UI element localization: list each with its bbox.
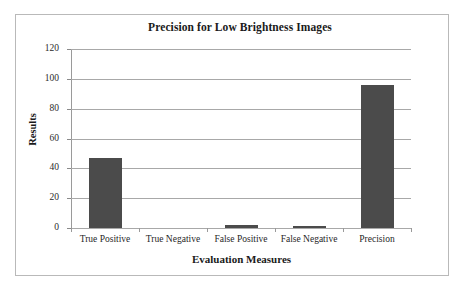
y-gridline bbox=[71, 79, 411, 80]
x-tick-mark bbox=[343, 228, 344, 232]
bar bbox=[225, 225, 258, 228]
bar bbox=[361, 85, 394, 228]
x-axis-title: Evaluation Measures bbox=[71, 253, 412, 265]
x-tick-mark bbox=[411, 228, 412, 232]
x-tick-label: True Negative bbox=[139, 234, 207, 244]
chart-figure: Precision for Low Brightness Images Resu… bbox=[0, 0, 465, 289]
y-tick-label: 80 bbox=[29, 104, 59, 114]
bar bbox=[293, 226, 326, 228]
plot-area bbox=[71, 49, 411, 228]
y-tick-mark bbox=[67, 198, 71, 199]
y-tick-mark bbox=[67, 139, 71, 140]
y-tick-label: 20 bbox=[29, 193, 59, 203]
x-tick-label: Precision bbox=[343, 234, 411, 244]
x-tick-mark bbox=[207, 228, 208, 232]
y-tick-label: 0 bbox=[29, 223, 59, 233]
y-tick-label: 100 bbox=[29, 74, 59, 84]
chart-title: Precision for Low Brightness Images bbox=[60, 21, 420, 33]
x-tick-mark bbox=[275, 228, 276, 232]
y-gridline bbox=[71, 228, 411, 229]
y-gridline bbox=[71, 49, 411, 50]
y-tick-mark bbox=[67, 79, 71, 80]
x-tick-label: False Negative bbox=[275, 234, 343, 244]
x-tick-label: False Positive bbox=[207, 234, 275, 244]
x-tick-label: True Positive bbox=[71, 234, 139, 244]
x-tick-mark bbox=[139, 228, 140, 232]
y-tick-label: 120 bbox=[29, 44, 59, 54]
y-tick-label: 60 bbox=[29, 134, 59, 144]
y-tick-mark bbox=[67, 49, 71, 50]
y-tick-mark bbox=[67, 168, 71, 169]
x-tick-mark bbox=[71, 228, 72, 232]
y-tick-mark bbox=[67, 109, 71, 110]
bar bbox=[89, 158, 122, 228]
y-tick-label: 40 bbox=[29, 163, 59, 173]
